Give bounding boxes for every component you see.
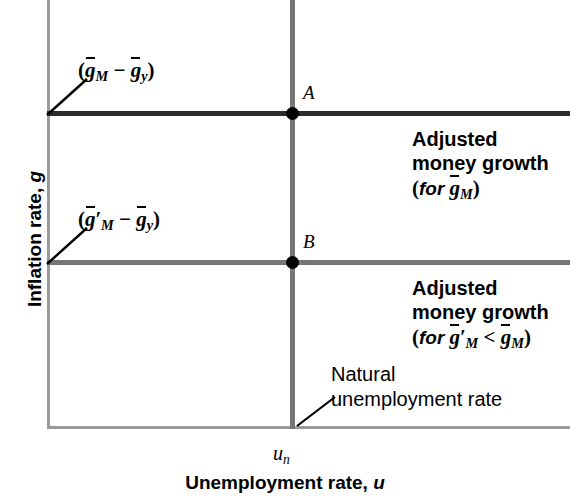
g-y-bar: g xyxy=(136,207,147,232)
x-axis-title-variable: u xyxy=(373,472,385,493)
minus-sign: − xyxy=(114,207,136,231)
adjusted-money-growth-line-high xyxy=(47,111,570,116)
u-subscript: n xyxy=(283,452,290,467)
paren-open: ( xyxy=(412,176,419,200)
y-value-label-high: (gM − gy) xyxy=(78,58,155,85)
annotation-adjusted-money-growth-low: Adjusted money growth (for g′M < gM) xyxy=(412,276,549,352)
g-m-prime-bar: g xyxy=(450,325,461,351)
equilibrium-point-a xyxy=(286,107,299,120)
g-m-subscript: M xyxy=(511,335,524,351)
y-value-label-low: (g′M − gy) xyxy=(78,207,160,234)
y-axis-title: Inflation rate, g xyxy=(24,109,46,369)
natural-note-line-2: unemployment rate xyxy=(331,387,502,412)
equilibrium-point-b xyxy=(286,256,299,269)
equilibrium-point-b-label: B xyxy=(303,231,315,253)
g-m-prime-subscript: M xyxy=(466,335,479,351)
y-axis-title-variable: g xyxy=(24,171,45,183)
g-m-bar: g xyxy=(501,325,512,351)
adjusted-money-growth-line-low xyxy=(47,260,570,265)
x-axis-title: Unemployment rate, u xyxy=(0,472,570,494)
paren-close: ) xyxy=(524,325,531,349)
natural-unemployment-rate-line xyxy=(290,0,295,429)
annotation-line-1: Adjusted xyxy=(412,276,549,300)
equilibrium-point-a-label: A xyxy=(303,82,315,104)
g-m-prime-subscript: M xyxy=(101,217,114,233)
minus-sign: − xyxy=(108,58,130,82)
annotation-line-2: money growth xyxy=(412,151,549,175)
y-axis-line xyxy=(47,0,50,429)
natural-note-line-1: Natural xyxy=(331,362,502,387)
paren-close: ) xyxy=(473,176,480,200)
g-m-prime-bar: g xyxy=(85,207,96,232)
annotation-adjusted-money-growth-high: Adjusted money growth (for gM) xyxy=(412,127,549,203)
y-axis-title-text: Inflation rate, xyxy=(24,183,45,308)
for-word: for xyxy=(419,178,450,199)
x-axis-tick-label-un: un xyxy=(273,442,290,468)
annotation-line-3: (for gM) xyxy=(412,176,549,203)
g-y-bar: g xyxy=(131,58,142,83)
annotation-line-2: money growth xyxy=(412,300,549,324)
x-axis-title-text: Unemployment rate, xyxy=(185,472,373,493)
g-m-subscript: M xyxy=(96,68,109,84)
paren-open: ( xyxy=(412,325,419,349)
annotation-line-1: Adjusted xyxy=(412,127,549,151)
inflation-unemployment-chart: A B (gM − gy) (g′M − gy) Adjusted money … xyxy=(0,0,570,496)
g-m-bar: g xyxy=(85,58,96,83)
paren-open: ( xyxy=(78,207,85,231)
paren-open: ( xyxy=(78,58,85,82)
less-than-sign: < xyxy=(478,325,500,349)
g-m-subscript: M xyxy=(460,186,473,202)
paren-close: ) xyxy=(153,207,160,231)
g-m-bar: g xyxy=(450,176,461,202)
annotation-natural-unemployment-rate: Natural unemployment rate xyxy=(331,362,502,412)
for-word: for xyxy=(419,327,450,348)
annotation-line-3: (for g′M < gM) xyxy=(412,325,549,352)
u-variable: u xyxy=(273,442,283,464)
paren-close: ) xyxy=(148,58,155,82)
